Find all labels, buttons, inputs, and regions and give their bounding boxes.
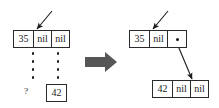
unknown-marker: ? xyxy=(24,87,28,96)
node-35-before: 35 nil nil xyxy=(13,30,70,48)
node-35-before-cell-left: nil xyxy=(33,31,51,47)
node-35-after-cell-left: nil xyxy=(149,31,167,47)
vertical-dots-right xyxy=(56,52,60,79)
block-arrow-right xyxy=(85,52,117,72)
dot xyxy=(57,60,60,63)
node-35-after: 35 nil xyxy=(129,30,187,48)
node-35-after-cell-value: 35 xyxy=(130,31,149,47)
node-42-after-cell-right: nil xyxy=(190,81,208,97)
node-35-after-cell-right-pointer xyxy=(167,31,186,47)
node-42-after-cell-left: nil xyxy=(172,81,190,97)
incoming-reference-arrow-before xyxy=(37,11,52,29)
pointer-dot-icon xyxy=(176,38,179,41)
dot xyxy=(57,76,60,79)
node-35-before-cell-right: nil xyxy=(51,31,69,47)
dot xyxy=(32,52,35,55)
tree-insertion-figure: 35 nil nil ? 42 35 nil 42 nil nil xyxy=(0,0,219,108)
node-42-after-cell-value: 42 xyxy=(153,81,172,97)
dot xyxy=(57,52,60,55)
node-35-before-cell-value: 35 xyxy=(14,31,33,47)
dot xyxy=(32,76,35,79)
incoming-reference-arrow-after xyxy=(153,11,168,29)
node-42-after: 42 nil nil xyxy=(152,80,209,98)
node-42-detached: 42 xyxy=(46,84,67,102)
vertical-dots-left xyxy=(31,52,35,79)
dot xyxy=(57,68,60,71)
dot xyxy=(32,60,35,63)
dot xyxy=(32,68,35,71)
